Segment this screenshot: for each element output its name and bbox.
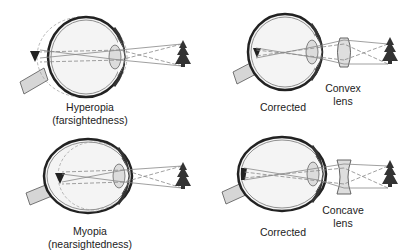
inverted-image-icon (30, 51, 40, 62)
optic-nerve-icon (20, 68, 48, 94)
myopia-panel (26, 139, 191, 213)
tree-object-icon (382, 37, 398, 64)
concave-lens-label-line1: Concave (322, 204, 363, 217)
hyperopia-label-line2: (farsightedness) (52, 114, 127, 127)
myopia-label-line1: Myopia (48, 225, 132, 238)
corrected-label-bottom: Corrected (260, 226, 306, 239)
hyperopia-label: Hyperopia (farsightedness) (52, 101, 127, 126)
concave-lens-label-line2: lens (322, 217, 363, 230)
hyperopia-panel (20, 17, 191, 97)
hyperopia-label-line1: Hyperopia (52, 101, 127, 114)
corrected-label-top: Corrected (260, 101, 306, 114)
concave-lens-label: Concave lens (322, 204, 363, 229)
hyperopia-corrected-panel (233, 14, 398, 90)
myopia-corrected-panel (222, 137, 398, 211)
convex-lens-label: Convex lens (325, 82, 361, 107)
convex-lens-label-line2: lens (325, 95, 361, 108)
tree-object-icon (382, 160, 398, 187)
myopia-label-line2: (nearsightedness) (48, 238, 132, 250)
myopia-label: Myopia (nearsightedness) (48, 225, 132, 250)
convex-lens-label-line1: Convex (325, 82, 361, 95)
